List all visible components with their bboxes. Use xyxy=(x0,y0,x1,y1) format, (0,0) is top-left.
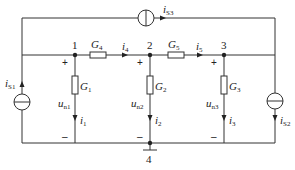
node-4-label: 4 xyxy=(146,153,152,165)
arrow-i2-icon xyxy=(148,115,153,121)
label-g1: G1 xyxy=(80,80,92,94)
plus-un1: + xyxy=(62,57,68,68)
node-1-label: 1 xyxy=(72,39,78,51)
resistor-g2-icon xyxy=(147,76,153,94)
label-i2: i2 xyxy=(155,114,162,128)
resistor-g4-icon xyxy=(90,52,106,58)
label-un3: un3 xyxy=(206,97,219,111)
node-3-label: 3 xyxy=(221,39,227,51)
node-4-dot xyxy=(148,141,152,145)
label-g3: G3 xyxy=(229,80,241,94)
label-g4: G4 xyxy=(91,38,103,52)
label-g2: G2 xyxy=(155,80,167,94)
minus-un2: – xyxy=(137,131,143,142)
arrow-is1-icon xyxy=(20,81,25,87)
label-is1: iS1 xyxy=(5,77,16,91)
plus-un3: + xyxy=(211,57,217,68)
label-i5: i5 xyxy=(196,40,203,54)
node-2-dot xyxy=(148,53,152,57)
label-i1: i1 xyxy=(80,114,87,128)
label-is2: iS2 xyxy=(280,114,291,128)
label-g5: G5 xyxy=(168,38,180,52)
arrow-i1-icon xyxy=(73,115,78,121)
arrow-is2-icon xyxy=(273,115,278,121)
node-1-dot xyxy=(73,53,77,57)
minus-un3: – xyxy=(211,131,217,142)
plus-un2: + xyxy=(137,57,143,68)
label-is3: iS3 xyxy=(163,3,174,17)
minus-un1: – xyxy=(62,131,68,142)
node-2-label: 2 xyxy=(147,39,153,51)
label-un1: un1 xyxy=(58,97,71,111)
resistor-g1-icon xyxy=(72,76,78,94)
circuit-diagram: 1 2 3 4 G1 G2 G3 G4 G5 i1 i2 i3 i4 i5 iS… xyxy=(0,0,295,170)
label-un2: un2 xyxy=(131,97,144,111)
label-i4: i4 xyxy=(122,40,129,54)
label-i3: i3 xyxy=(229,114,236,128)
resistor-g3-icon xyxy=(221,76,227,94)
arrow-i3-icon xyxy=(222,115,227,121)
node-3-dot xyxy=(222,53,226,57)
resistor-g5-icon xyxy=(168,52,184,58)
